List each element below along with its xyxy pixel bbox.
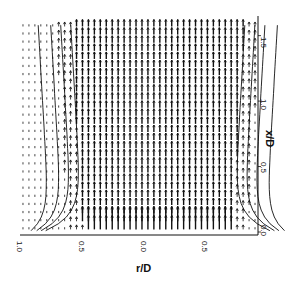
y-tick-label: 0.5 <box>259 162 268 173</box>
contour-lines <box>31 25 284 231</box>
y-axis-title: x/D <box>264 130 276 147</box>
x-axis-title: r/D <box>136 262 151 274</box>
vector-field-figure: 1.0 0.5 0.0 0.5 0.0 0.5 1.0 1.5 r/D x/D <box>0 0 300 287</box>
y-tick-label: 1.5 <box>259 37 268 48</box>
x-tick-label: 0.5 <box>77 241 86 252</box>
y-tick-label: 1.0 <box>259 99 268 110</box>
x-tick-label: 1.0 <box>15 241 24 252</box>
x-tick-label: 0.5 <box>200 241 209 252</box>
velocity-vectors <box>23 19 256 229</box>
x-tick-label: 0.0 <box>139 241 148 252</box>
y-tick-label: 0.0 <box>259 225 268 236</box>
plot-area <box>0 0 300 287</box>
